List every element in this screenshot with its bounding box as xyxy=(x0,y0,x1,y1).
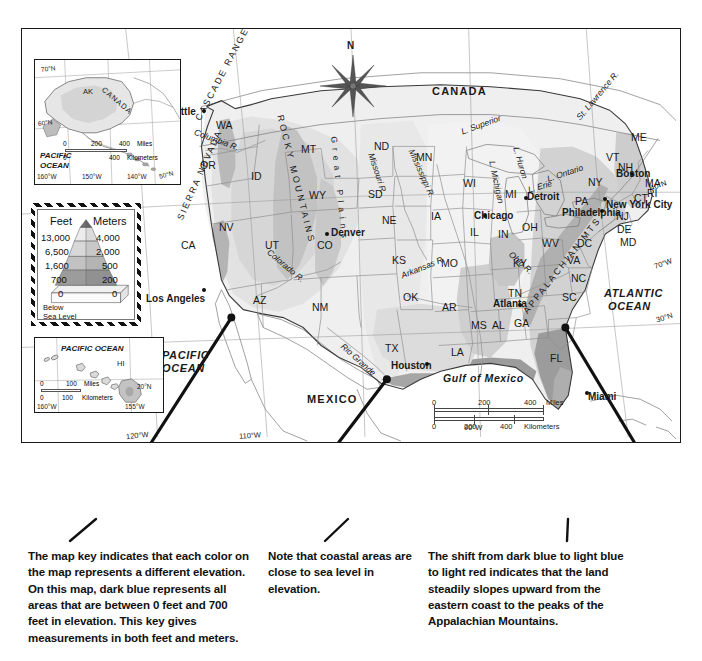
key-feet-6500: 6,500 xyxy=(45,246,69,257)
city-dot-houston xyxy=(425,362,429,366)
hawaii-inset: PACIFIC OCEAN HI 20°N 160°W 155°W 0 100 … xyxy=(34,337,164,413)
ak-scale-mi-0: 0 xyxy=(63,140,67,147)
key-header-meters: Meters xyxy=(93,215,127,227)
scale-miles-tick-400: 400 xyxy=(524,398,537,407)
ak-scale-mi-400: 400 xyxy=(119,140,130,147)
key-meters-4000: 4,000 xyxy=(96,232,120,243)
city-label-los-angeles: Los Angeles xyxy=(146,294,205,304)
alaska-scale-bar: 0 200 400 Miles 0 400 Kilometers xyxy=(65,140,165,168)
key-feet-1600: 1,600 xyxy=(45,260,69,271)
city-dot-seattle xyxy=(202,109,206,113)
key-feet-0: 0 xyxy=(58,288,63,299)
hi-scale-mi-100: 100 xyxy=(66,380,77,387)
city-dot-chicago xyxy=(483,214,487,218)
key-feet-700: 700 xyxy=(51,274,67,285)
key-meters-2000: 2,000 xyxy=(96,246,120,257)
city-dot-los-angeles xyxy=(202,288,206,292)
key-meters-0: 0 xyxy=(112,288,117,299)
scale-km-tick-200: 200 xyxy=(464,422,477,431)
city-label-miami: Miami xyxy=(588,392,616,402)
scale-bar-kilometers xyxy=(434,417,544,421)
city-dot-denver xyxy=(325,232,329,236)
city-dot-new-york-city xyxy=(603,197,607,201)
caption-coastal-note: Note that coastal areas are close to sea… xyxy=(268,548,428,597)
hawaii-label-pacific-ocean: PACIFIC OCEAN xyxy=(61,345,124,353)
hi-scale-km-0: 0 xyxy=(40,394,44,401)
ak-scale-mi-200: 200 xyxy=(91,140,102,147)
scale-bar-miles xyxy=(434,408,544,412)
map-scale-bar: 0 200 400 Miles 0 200 400 Kilometers xyxy=(434,398,564,434)
key-header-feet: Feet xyxy=(50,215,72,227)
city-dot-miami xyxy=(585,391,589,395)
key-feet-13000: 13,000 xyxy=(41,232,70,243)
alaska-coord-140w: 140°W xyxy=(127,174,147,181)
scale-km-tick-400: 400 xyxy=(500,422,513,431)
scale-km-tick-0: 0 xyxy=(432,422,436,431)
scale-miles-tick-200: 200 xyxy=(478,398,491,407)
ak-scale-km-unit: Kilometers xyxy=(127,154,158,161)
city-dot-detroit xyxy=(524,196,528,200)
city-label-denver: Denver xyxy=(331,228,365,238)
scale-miles-tick-0: 0 xyxy=(432,398,436,407)
ak-scale-km-400: 400 xyxy=(109,154,120,161)
key-meters-500: 500 xyxy=(102,260,118,271)
city-label-detroit: Detroit xyxy=(527,192,559,202)
alaska-coord-150w: 150°W xyxy=(82,174,102,181)
city-label-chicago: Chicago xyxy=(474,211,513,221)
caption-key-note: The map key indicates that each color on… xyxy=(28,548,250,646)
alaska-coord-160w: 160°W xyxy=(37,174,57,181)
ak-scale-km-0: 0 xyxy=(63,154,67,161)
hi-scale-mi-unit: Miles xyxy=(84,380,99,387)
scale-miles-unit: Miles xyxy=(546,398,564,407)
key-below-sea-level-line2: Sea Level xyxy=(43,313,76,322)
city-dot-atlanta xyxy=(518,303,522,307)
hi-scale-km-unit: Kilometers xyxy=(82,394,113,401)
ak-scale-mi-unit: Miles xyxy=(137,140,152,147)
city-dot-boston xyxy=(630,172,634,176)
caption-slope-note: The shift from dark blue to light blue t… xyxy=(428,548,628,630)
alaska-inset: AK CANADA PACIFIC OCEAN 70°N 60°N 50°N 1… xyxy=(34,59,181,185)
hi-scale-km-100: 100 xyxy=(62,394,73,401)
alaska-label-ak: AK xyxy=(83,88,93,96)
hi-scale-mi-0: 0 xyxy=(40,380,44,387)
hawaii-label-hi: HI xyxy=(117,360,125,368)
key-meters-200: 200 xyxy=(102,274,118,285)
hawaii-scale-bar: 0 100 Miles 0 100 Kilometers xyxy=(40,380,130,406)
coord-label-110w: 110°W xyxy=(239,431,262,440)
scale-km-unit: Kilometers xyxy=(524,422,559,431)
city-dot-philadelphia xyxy=(600,209,604,213)
city-label-new-york-city: New York City xyxy=(606,200,672,210)
hawaii-coord-20n: 20°N xyxy=(137,384,152,391)
elevation-key: Feet Meters 13,000 4,000 6,500 2,000 1,6… xyxy=(31,203,141,326)
